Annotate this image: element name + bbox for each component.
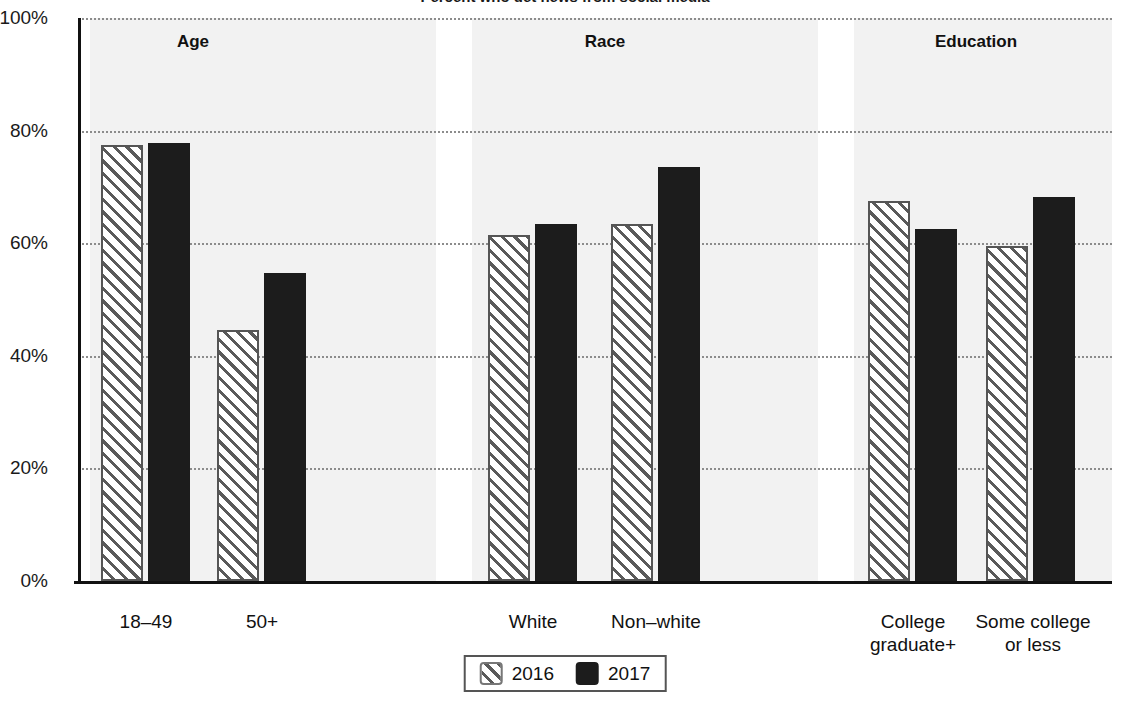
x-label-edu-some-college-line1: Some college (975, 610, 1090, 633)
panel-header-race: Race (585, 32, 626, 52)
legend-label-2016: 2016 (512, 663, 554, 685)
y-axis-tick-20: 20% (0, 457, 48, 479)
bar-edu-some-college-2017 (1033, 197, 1075, 582)
x-label-edu-some-college-line2: or less (975, 633, 1090, 656)
x-label-age-18-49: 18–49 (120, 610, 173, 633)
legend-label-2017: 2017 (608, 663, 650, 685)
x-label-edu-college-grad-line1: College (870, 610, 956, 633)
x-label-edu-some-college: Some college or less (975, 610, 1090, 656)
gridline-80 (78, 131, 1112, 133)
y-axis-tick-100: 100% (0, 7, 48, 29)
bar-race-non-white-2017 (658, 167, 700, 581)
x-axis-line (74, 581, 1112, 584)
y-axis-tick-80: 80% (0, 120, 48, 142)
plot-area: Age Race Education 18–49 50+ White Non–w… (78, 18, 1112, 581)
bar-age-50plus-2017 (264, 273, 306, 582)
gridline-100 (78, 18, 1112, 20)
bar-edu-college-grad-2016 (868, 201, 910, 581)
x-label-race-white: White (509, 610, 558, 633)
legend-item-2017[interactable]: 2017 (576, 662, 650, 685)
bar-age-50plus-2016 (217, 330, 259, 581)
grouped-bar-chart: Percent who get news from social media 0… (0, 0, 1130, 711)
panel-header-education: Education (935, 32, 1017, 52)
bar-age-18-49-2017 (148, 143, 190, 581)
bar-age-18-49-2016 (101, 145, 143, 581)
y-axis-line (78, 18, 81, 581)
legend-swatch-hatched-icon (480, 662, 503, 685)
y-axis-tick-0: 0% (0, 570, 48, 592)
bar-race-white-2016 (488, 235, 530, 581)
chart-title: Percent who get news from social media (0, 0, 1130, 2)
x-label-age-50plus: 50+ (246, 610, 278, 633)
bar-edu-some-college-2016 (986, 246, 1028, 581)
chart-legend: 2016 2017 (464, 655, 667, 692)
x-label-edu-college-grad: College graduate+ (870, 610, 956, 656)
panel-header-age: Age (177, 32, 209, 52)
y-axis-tick-60: 60% (0, 232, 48, 254)
bar-race-white-2017 (535, 224, 577, 582)
legend-item-2016[interactable]: 2016 (480, 662, 554, 685)
x-label-race-non-white: Non–white (611, 610, 701, 633)
bar-edu-college-grad-2017 (915, 229, 957, 581)
legend-swatch-solid-icon (576, 662, 599, 685)
bar-race-non-white-2016 (611, 224, 653, 582)
x-label-edu-college-grad-line2: graduate+ (870, 633, 956, 656)
y-axis-tick-40: 40% (0, 345, 48, 367)
